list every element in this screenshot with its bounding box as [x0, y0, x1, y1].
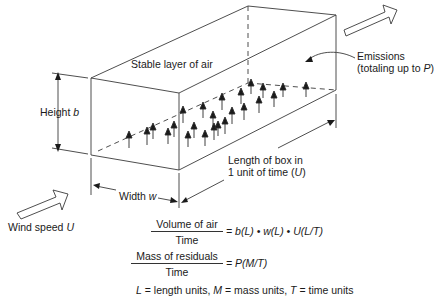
length-label: Length of box in 1 unit of time (U): [228, 154, 306, 178]
width-var: w: [149, 190, 157, 202]
equation-2-numerator: Mass of residuals: [131, 250, 223, 264]
width-label: Width w: [119, 190, 156, 202]
units-note: L = length units, M = mass units, T = ti…: [136, 284, 353, 296]
box-front-face: [91, 78, 179, 170]
equation-1-numerator: Volume of air: [151, 218, 223, 232]
equation-1-rhs: = b(L) • w(L) • U(L/T): [226, 225, 323, 237]
top-face-label: Stable layer of air: [131, 58, 213, 70]
height-var: b: [73, 106, 79, 118]
height-label: Height b: [40, 106, 79, 118]
equation-1-denominator: Time: [151, 232, 223, 246]
wind-arrow-icon: [17, 190, 68, 219]
equation-2-rhs: = P(M/T): [226, 257, 267, 269]
outflow-arrow-icon: [344, 5, 397, 36]
emissions-label-line1: Emissions: [357, 50, 434, 62]
length-label-line2: 1 unit of time (U): [228, 166, 306, 178]
emissions-label-line2: (totaling up to P): [357, 62, 434, 74]
wind-speed-label: Wind speed U: [8, 221, 74, 233]
width-label-text: Width: [119, 190, 149, 202]
equation-2-fraction: Mass of residuals Time: [131, 250, 223, 278]
height-label-text: Height: [40, 106, 73, 118]
equation-1-fraction: Volume of air Time: [151, 218, 223, 246]
emission-arrows: [126, 79, 309, 148]
length-label-line1: Length of box in: [228, 154, 306, 166]
emissions-label: Emissions (totaling up to P): [357, 50, 434, 74]
equation-2-denominator: Time: [131, 264, 223, 278]
